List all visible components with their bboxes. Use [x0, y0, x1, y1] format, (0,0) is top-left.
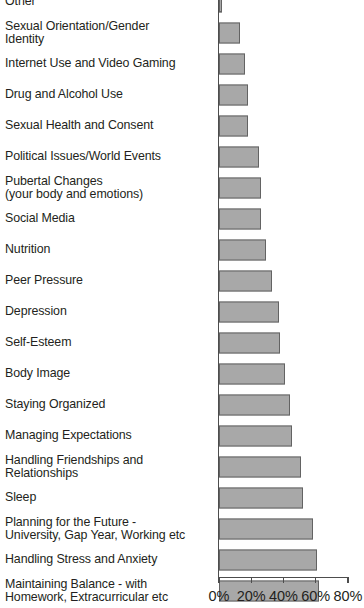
category-label: Handling Friendships and Relationships — [5, 453, 213, 479]
chart-row: Drug and Alcohol Use — [0, 79, 364, 110]
chart-row: Nutrition — [0, 234, 364, 265]
chart-row: Social Media — [0, 203, 364, 234]
chart-row: Internet Use and Video Gaming — [0, 48, 364, 79]
chart-row: Political Issues/World Events — [0, 141, 364, 172]
category-label: Peer Pressure — [5, 274, 213, 287]
bar-track — [219, 53, 359, 74]
category-label: Depression — [5, 305, 213, 318]
category-label: Managing Expectations — [5, 429, 213, 442]
bar — [219, 208, 261, 229]
bar-track — [219, 518, 359, 539]
chart-row: Sexual Health and Consent — [0, 110, 364, 141]
x-axis-tick-label: 20% — [237, 588, 266, 605]
chart-row: Pubertal Changes (your body and emotions… — [0, 172, 364, 203]
category-label: Social Media — [5, 212, 213, 225]
category-label: Sexual Orientation/Gender Identity — [5, 19, 213, 45]
chart-row: Planning for the Future - University, Ga… — [0, 513, 364, 544]
bar — [219, 0, 222, 12]
x-axis-tick-label: 60% — [301, 588, 330, 605]
category-label: Self-Esteem — [5, 336, 213, 349]
chart-row: Peer Pressure — [0, 265, 364, 296]
plot-area: OtherSexual Orientation/Gender IdentityI… — [0, 0, 364, 578]
bar — [219, 239, 266, 260]
bar — [219, 332, 280, 353]
bar — [219, 394, 290, 415]
chart-row: Self-Esteem — [0, 327, 364, 358]
chart-row: Sleep — [0, 482, 364, 513]
category-label: Pubertal Changes (your body and emotions… — [5, 174, 213, 200]
bar-track — [219, 549, 359, 570]
category-label: Internet Use and Video Gaming — [5, 57, 213, 70]
x-axis-tick — [315, 577, 316, 583]
bar-track — [219, 456, 359, 477]
bar — [219, 22, 240, 43]
category-label: Sexual Health and Consent — [5, 119, 213, 132]
x-axis-tick-label: 40% — [269, 588, 298, 605]
bar-track — [219, 208, 359, 229]
bar-track — [219, 301, 359, 322]
bar-track — [219, 425, 359, 446]
bar-track — [219, 115, 359, 136]
bar — [219, 84, 248, 105]
chart-row: Body Image — [0, 358, 364, 389]
chart-row: Other — [0, 0, 364, 17]
category-label: Drug and Alcohol Use — [5, 88, 213, 101]
y-axis-line — [218, 0, 219, 578]
bar-track — [219, 239, 359, 260]
bar-track — [219, 487, 359, 508]
category-label: Planning for the Future - University, Ga… — [5, 515, 213, 541]
category-label: Nutrition — [5, 243, 213, 256]
bar-track — [219, 22, 359, 43]
x-axis-tick-label: 0% — [209, 588, 230, 605]
category-label: Body Image — [5, 367, 213, 380]
bar — [219, 53, 245, 74]
bar-track — [219, 332, 359, 353]
chart-row: Sexual Orientation/Gender Identity — [0, 17, 364, 48]
chart-row: Staying Organized — [0, 389, 364, 420]
bar — [219, 549, 317, 570]
category-label: Handling Stress and Anxiety — [5, 553, 213, 566]
bar-track — [219, 177, 359, 198]
chart-row: Handling Stress and Anxiety — [0, 544, 364, 575]
category-label: Other — [5, 0, 213, 8]
x-axis-tick — [251, 577, 252, 583]
bar-track — [219, 146, 359, 167]
bar-chart: OtherSexual Orientation/Gender IdentityI… — [0, 0, 364, 608]
chart-row: Depression — [0, 296, 364, 327]
bar — [219, 177, 261, 198]
bar-track — [219, 363, 359, 384]
x-axis-tick — [283, 577, 284, 583]
chart-row: Managing Expectations — [0, 420, 364, 451]
bar — [219, 456, 301, 477]
bar — [219, 146, 259, 167]
x-axis-tick-labels: 0%20%40%60%80% — [200, 588, 364, 606]
category-label: Sleep — [5, 491, 213, 504]
chart-row: Handling Friendships and Relationships — [0, 451, 364, 482]
category-label: Staying Organized — [5, 398, 213, 411]
bar — [219, 115, 248, 136]
bar-track — [219, 394, 359, 415]
x-axis-tick — [218, 577, 219, 583]
bar — [219, 363, 285, 384]
bar-track — [219, 270, 359, 291]
bar — [219, 301, 279, 322]
x-axis-tick — [347, 577, 348, 583]
bar — [219, 425, 292, 446]
category-label: Political Issues/World Events — [5, 150, 213, 163]
bar — [219, 270, 272, 291]
bar-track — [219, 84, 359, 105]
bar — [219, 518, 313, 539]
x-axis-tick-label: 80% — [333, 588, 362, 605]
category-label: Maintaining Balance - with Homework, Ext… — [5, 577, 213, 603]
bar-track — [219, 0, 359, 12]
bar — [219, 487, 303, 508]
